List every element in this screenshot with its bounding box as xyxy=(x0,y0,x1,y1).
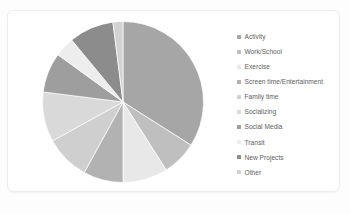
legend-label: Activity xyxy=(245,33,266,40)
legend-swatch-icon xyxy=(237,140,241,144)
legend-swatch-icon xyxy=(237,95,241,99)
chart-legend: ActivityWork/SchoolExerciseScreen time/E… xyxy=(237,29,349,180)
legend-label: Screen time/Entertainment xyxy=(245,78,324,85)
legend-item[interactable]: Family time xyxy=(237,89,349,104)
legend-item[interactable]: Activity xyxy=(237,29,349,44)
legend-label: Work/School xyxy=(245,48,282,55)
pie-chart-svg xyxy=(41,20,205,184)
legend-item[interactable]: Work/School xyxy=(237,44,349,59)
legend-swatch-icon xyxy=(237,80,241,84)
legend-swatch-icon xyxy=(237,155,241,159)
legend-swatch-icon xyxy=(237,65,241,69)
legend-swatch-icon xyxy=(237,125,241,129)
legend-item[interactable]: Social Media xyxy=(237,120,349,135)
legend-swatch-icon xyxy=(237,170,241,174)
legend-label: Exercise xyxy=(245,63,270,70)
legend-label: Socializing xyxy=(245,108,277,115)
legend-label: Social Media xyxy=(245,123,283,130)
pie-chart-card: ActivityWork/SchoolExerciseScreen time/E… xyxy=(7,10,340,192)
legend-label: Transit xyxy=(245,139,265,146)
legend-item[interactable]: Screen time/Entertainment xyxy=(237,74,349,89)
legend-swatch-icon xyxy=(237,110,241,114)
legend-swatch-icon xyxy=(237,50,241,54)
legend-item[interactable]: Transit xyxy=(237,135,349,150)
pie-slice-group xyxy=(42,21,203,182)
legend-label: Family time xyxy=(245,93,279,100)
legend-item[interactable]: Socializing xyxy=(237,104,349,119)
legend-label: Other xyxy=(245,169,262,176)
legend-item[interactable]: New Projects xyxy=(237,150,349,165)
screenshot-root: ActivityWork/SchoolExerciseScreen time/E… xyxy=(0,0,350,214)
legend-item[interactable]: Exercise xyxy=(237,59,349,74)
pie-chart[interactable] xyxy=(41,20,205,184)
legend-swatch-icon xyxy=(237,35,241,39)
legend-item[interactable]: Other xyxy=(237,165,349,180)
legend-label: New Projects xyxy=(245,154,284,161)
